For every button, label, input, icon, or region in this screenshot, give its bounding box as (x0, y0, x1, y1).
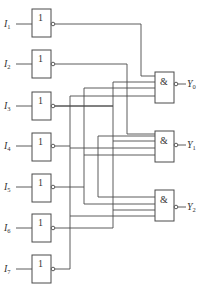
svg-text:I3: I3 (3, 100, 11, 112)
svg-text:&: & (160, 194, 168, 205)
svg-text:1: 1 (38, 177, 43, 188)
input-i2: I2 1 (3, 50, 55, 78)
wiring (55, 24, 155, 269)
logic-circuit-diagram: I1 1 I2 1 I3 1 I4 1 I5 1 I6 1 (0, 0, 200, 299)
input-i4: I4 1 (3, 133, 55, 161)
svg-text:I7: I7 (3, 263, 11, 275)
and-gate-y0: & Y0 (155, 72, 196, 103)
input-i1: I1 1 (3, 9, 55, 37)
svg-text:Y2: Y2 (187, 201, 196, 213)
svg-text:1: 1 (38, 95, 43, 106)
input-i6: I6 1 (3, 214, 55, 242)
svg-text:Y1: Y1 (187, 139, 196, 151)
and-gate-y1: & Y1 (155, 131, 196, 162)
svg-text:I6: I6 (3, 222, 11, 234)
input-i7: I7 1 (3, 255, 55, 283)
svg-text:1: 1 (38, 12, 43, 23)
svg-text:1: 1 (38, 136, 43, 147)
svg-text:I2: I2 (3, 58, 11, 70)
input-i3: I3 1 (3, 92, 55, 120)
svg-text:1: 1 (38, 217, 43, 228)
input-i5: I5 1 (3, 174, 55, 202)
svg-text:I4: I4 (3, 140, 11, 152)
input-label-i1: I1 (3, 18, 11, 30)
inversion-bubble (51, 22, 55, 26)
svg-text:Y0: Y0 (187, 78, 196, 90)
svg-text:1: 1 (38, 258, 43, 269)
svg-text:1: 1 (38, 53, 43, 64)
svg-text:I5: I5 (3, 181, 11, 193)
svg-text:&: & (160, 76, 168, 87)
and-gate-y2: & Y2 (155, 190, 196, 221)
svg-text:&: & (160, 135, 168, 146)
